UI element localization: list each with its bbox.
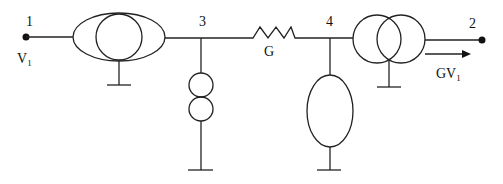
node-2-terminal [479,37,486,44]
right-transformer-icon [353,15,425,87]
voltage-subscript: 1 [27,58,32,68]
circuit-svg [0,0,503,184]
output-gv1-label: GV1 [436,67,461,83]
node-1-label: 1 [26,15,33,29]
node-2-label: 2 [469,17,476,31]
circuit-diagram: 1 V1 3 G 4 2 GV1 [0,0,503,184]
output-symbol: GV [436,66,456,81]
output-arrow-icon [425,50,471,58]
node-4-label: 4 [326,15,333,29]
left-transformer-icon [73,13,165,85]
voltage-v1-label: V1 [17,52,32,68]
double-circle-source-icon [188,38,213,170]
resistor-icon [248,27,300,38]
voltage-symbol: V [17,51,27,66]
node-3-label: 3 [199,15,206,29]
resistor-g-label: G [264,45,274,59]
output-subscript: 1 [456,73,461,83]
ellipse-load-icon [307,38,353,170]
